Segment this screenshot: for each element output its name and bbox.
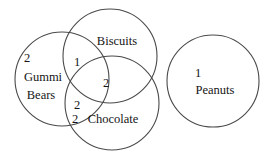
venn-diagram: Biscuits 2 Gummi Bears 1 2 2 2 Chocolate… xyxy=(0,0,265,165)
label-peanuts: Peanuts xyxy=(196,84,235,97)
count-gummi-chocolate: 2 xyxy=(74,99,80,112)
circle-peanuts xyxy=(167,35,259,127)
count-gummi-biscuits: 1 xyxy=(74,56,80,69)
count-peanuts-only: 1 xyxy=(195,67,201,80)
label-gummi-bears-line2: Bears xyxy=(27,89,55,102)
count-chocolate-only: 2 xyxy=(72,113,78,126)
count-biscuits-chocolate: 2 xyxy=(103,77,109,90)
label-gummi-bears-line1: Gummi xyxy=(24,71,62,84)
count-gummi-bears-only: 2 xyxy=(24,52,30,65)
label-chocolate: Chocolate xyxy=(88,113,139,126)
label-biscuits: Biscuits xyxy=(97,35,137,48)
